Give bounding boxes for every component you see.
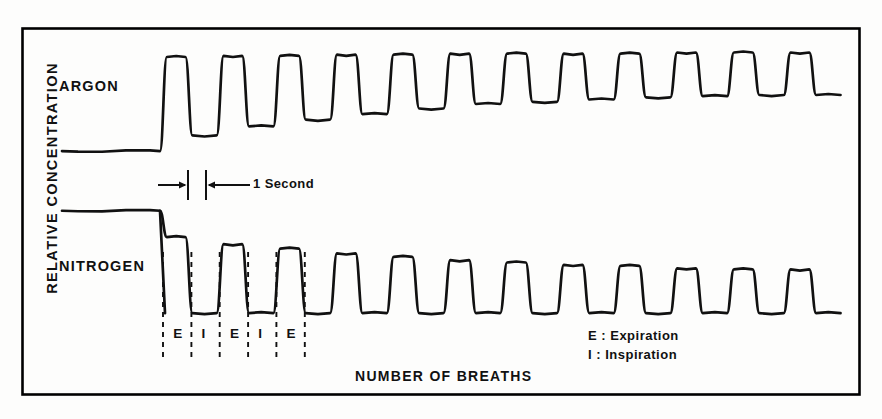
nitrogen-trace-label: NITROGEN bbox=[59, 258, 145, 274]
y-axis-label: RELATIVE CONCENTRATION bbox=[44, 48, 60, 308]
phase-marker-e-4: E bbox=[287, 326, 296, 341]
phase-marker-i-1: I bbox=[202, 326, 206, 341]
phase-marker-e-0: E bbox=[173, 326, 182, 341]
x-axis-label: NUMBER OF BREATHS bbox=[355, 368, 532, 384]
phase-marker-e-2: E bbox=[230, 326, 239, 341]
legend-inspiration: I : Inspiration bbox=[588, 347, 677, 362]
scale-bar-label: 1 Second bbox=[253, 176, 314, 191]
legend-expiration: E : Expiration bbox=[588, 328, 679, 343]
gas-concentration-figure bbox=[0, 0, 882, 419]
phase-marker-i-3: I bbox=[258, 326, 262, 341]
argon-trace-label: ARGON bbox=[59, 78, 119, 94]
